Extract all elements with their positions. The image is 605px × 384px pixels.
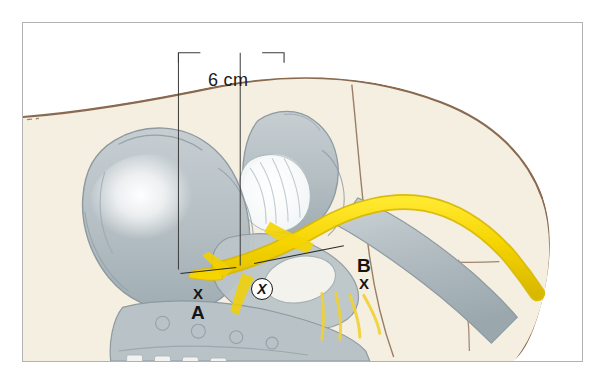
- measurement-label: 6 cm: [208, 71, 248, 89]
- figure-frame: 6 cm X A B X X: [22, 22, 583, 362]
- landmark-b-label: B: [357, 256, 371, 275]
- figure-root: 6 cm X A B X X: [0, 0, 605, 384]
- landmark-a-marker: X: [193, 286, 203, 301]
- anatomy-svg: [23, 23, 582, 361]
- midpoint-x-marker-label: X: [257, 282, 266, 296]
- anatomy-illustration: [23, 23, 582, 361]
- landmark-a-label: A: [191, 303, 205, 322]
- landmark-b-marker: X: [359, 276, 369, 291]
- midpoint-x-marker: X: [251, 278, 273, 300]
